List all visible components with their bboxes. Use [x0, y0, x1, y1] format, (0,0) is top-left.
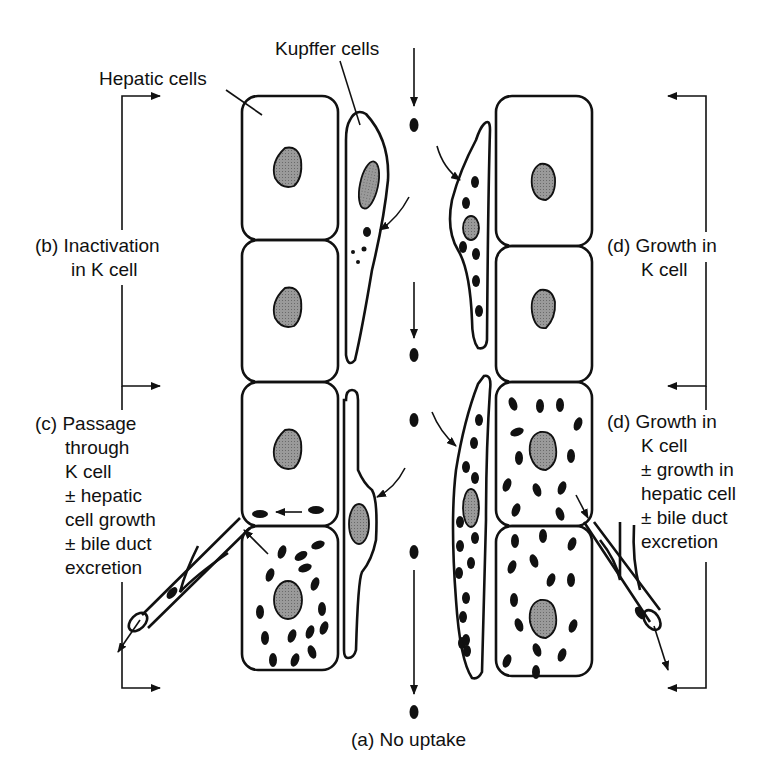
nucleus [274, 148, 302, 188]
label-c-passage-6: ± bile duct [65, 532, 151, 556]
label-b-inactivation-1: (b) Inactivation [35, 234, 160, 258]
label-c-passage-4: ± hepatic [65, 484, 142, 508]
label-d-growth-top-2: K cell [641, 258, 687, 282]
nucleus [274, 288, 302, 328]
liver-uptake-diagram: Hepatic cells Kupffer cells (b) Inactiva… [0, 0, 776, 780]
nucleus-kupffer [463, 216, 479, 240]
nucleus [530, 600, 557, 638]
bile-duct-left [142, 518, 250, 628]
label-d-growth-bottom-2: K cell [641, 434, 687, 458]
label-kupffer-cells: Kupffer cells [275, 37, 379, 61]
nucleus-kupffer [355, 160, 383, 211]
label-hepatic-cells: Hepatic cells [99, 67, 207, 91]
label-c-passage-3: K cell [65, 460, 111, 484]
nucleus [274, 430, 302, 470]
label-a-no-uptake: (a) No uptake [351, 728, 466, 752]
label-c-passage-5: cell growth [65, 508, 156, 532]
nucleus [532, 164, 555, 200]
label-c-passage-2: through [65, 436, 129, 460]
nucleus [532, 290, 555, 328]
label-d-growth-bottom-3: ± growth in [641, 458, 734, 482]
label-d-growth-bottom-6: excretion [641, 530, 718, 554]
nucleus-kupffer [349, 504, 369, 544]
nucleus [274, 581, 302, 619]
kupffer-cell-left-top [346, 112, 388, 363]
label-d-growth-bottom-4: hepatic cell [641, 482, 736, 506]
label-b-inactivation-2: in K cell [71, 258, 138, 282]
nucleus [530, 432, 557, 470]
label-c-passage-1: (c) Passage [35, 412, 136, 436]
diagram-drawing [0, 0, 776, 780]
label-d-growth-bottom-5: ± bile duct [641, 506, 727, 530]
label-c-passage-7: excretion [65, 556, 142, 580]
label-d-growth-bottom-1: (d) Growth in [607, 410, 717, 434]
nucleus-kupffer [463, 489, 479, 527]
label-d-growth-top-1: (d) Growth in [607, 234, 717, 258]
